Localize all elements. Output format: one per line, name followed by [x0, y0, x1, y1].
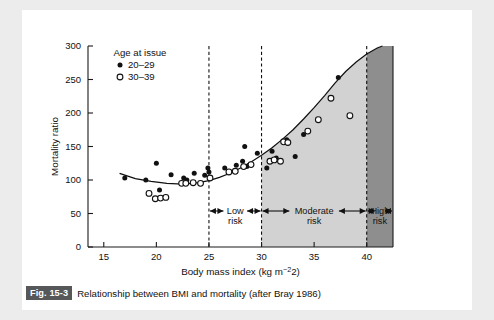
x-tick-label: 25 — [204, 251, 215, 262]
data-point-20–29 — [255, 151, 260, 156]
y-axis-title: Mortality ratio — [49, 117, 60, 176]
data-point-20–29 — [192, 171, 197, 176]
data-point-20–29 — [270, 149, 275, 154]
x-tick-label: 35 — [309, 251, 320, 262]
data-point-30–39 — [198, 180, 204, 186]
data-point-30–39 — [241, 164, 247, 170]
legend-label: 20–29 — [128, 59, 155, 70]
data-point-30–39 — [328, 95, 334, 101]
zone-label-line1: Moderate — [295, 206, 334, 216]
zone-label-line1: Low — [227, 206, 244, 216]
figure-caption: Fig. 15-3 Relationship between BMI and m… — [22, 282, 472, 304]
data-point-30–39 — [347, 113, 353, 119]
data-point-20–29 — [122, 175, 127, 180]
data-point-20–29 — [154, 161, 159, 166]
figure-caption-text: Relationship between BMI and mortality (… — [77, 288, 321, 299]
arrow-right-low-risk — [247, 208, 260, 214]
data-point-30–39 — [315, 117, 321, 123]
data-point-20–29 — [242, 144, 247, 149]
mortality-bmi-chart: 050100150200250300152025303540Body mass … — [22, 10, 472, 278]
legend-marker-filled-circle — [118, 63, 123, 68]
data-point-20–29 — [234, 163, 239, 168]
data-point-20–29 — [169, 172, 174, 177]
x-tick-label: 20 — [151, 251, 162, 262]
data-point-30–39 — [271, 157, 277, 163]
y-tick-label: 250 — [65, 74, 81, 85]
data-point-20–29 — [143, 178, 148, 183]
y-tick-label: 200 — [65, 107, 81, 118]
arrow-left-low-risk — [210, 208, 223, 214]
data-point-20–29 — [336, 75, 341, 80]
y-tick-label: 50 — [70, 208, 81, 219]
x-tick-label: 30 — [256, 251, 267, 262]
data-point-30–39 — [163, 195, 169, 201]
chart-plot-area: 050100150200250300152025303540Body mass … — [22, 10, 472, 278]
data-point-20–29 — [157, 188, 162, 193]
data-point-30–39 — [207, 175, 213, 181]
data-point-30–39 — [285, 140, 291, 146]
x-tick-label: 40 — [361, 251, 372, 262]
y-tick-label: 300 — [65, 40, 81, 51]
data-point-30–39 — [226, 169, 232, 175]
data-point-30–39 — [248, 162, 254, 168]
data-point-30–39 — [278, 158, 284, 164]
data-point-20–29 — [202, 173, 207, 178]
figure-panel: 050100150200250300152025303540Body mass … — [22, 10, 472, 310]
data-point-20–29 — [293, 154, 298, 159]
data-point-20–29 — [264, 165, 269, 170]
y-tick-label: 0 — [76, 241, 81, 252]
data-point-30–39 — [305, 128, 311, 134]
chart-legend: Age at issue20–2930–39 — [114, 47, 167, 82]
zone-label-line2: risk — [228, 216, 243, 226]
x-tick-label: 15 — [98, 251, 109, 262]
legend-marker-open-circle — [117, 74, 123, 80]
y-tick-label: 100 — [65, 174, 81, 185]
zone-label-line2: risk — [373, 216, 388, 226]
legend-label: 30–39 — [128, 71, 155, 82]
figure-number-badge: Fig. 15-3 — [26, 286, 72, 300]
zone-label-line1: High — [370, 206, 389, 216]
legend-title: Age at issue — [114, 47, 167, 58]
data-point-30–39 — [190, 180, 196, 186]
zone-label-line2: risk — [307, 216, 322, 226]
data-point-20–29 — [240, 159, 245, 164]
data-point-30–39 — [232, 168, 238, 174]
x-axis-title: Body mass index (kg m−22) — [181, 265, 300, 277]
y-tick-label: 150 — [65, 141, 81, 152]
data-point-30–39 — [146, 191, 152, 197]
data-point-20–29 — [206, 169, 211, 174]
data-point-30–39 — [183, 180, 189, 186]
zone-label-low-risk: Lowrisk — [210, 206, 261, 227]
